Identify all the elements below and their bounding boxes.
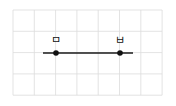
point-left [53, 50, 59, 56]
grid-diagram: ㅁ ㅂ [0, 0, 176, 106]
point-label-right: ㅂ [115, 34, 125, 47]
point-right [117, 50, 123, 56]
point-label-left: ㅁ [51, 34, 61, 47]
